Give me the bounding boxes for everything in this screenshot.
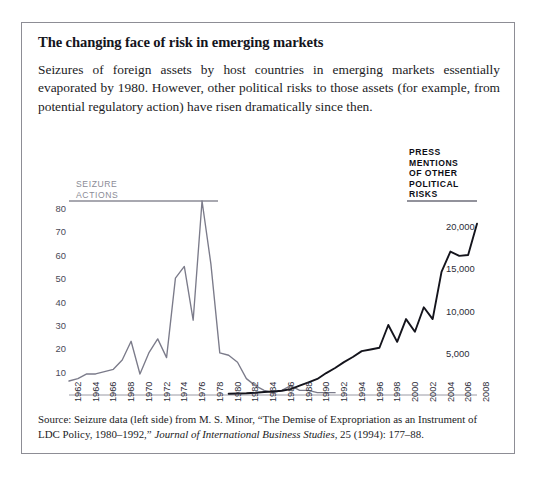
x-tick-1982: 1982 [250,382,260,402]
left-axis-title: SEIZURE ACTIONS [76,179,118,200]
right-axis-title-line4: POLITICAL [409,179,459,190]
x-tick-1968: 1968 [126,382,136,402]
figure-intro-text: Seizures of foreign assets by host count… [38,61,500,116]
x-tick-2002: 2002 [428,382,438,402]
source-suffix: , 25 (1994): 177–88. [335,428,424,440]
x-tick-2004: 2004 [446,382,456,402]
x-tick-2008: 2008 [481,382,491,402]
x-tick-1970: 1970 [144,382,154,402]
x-tick-1990: 1990 [321,382,331,402]
x-tick-1984: 1984 [268,382,278,402]
left-tick-80: 80 [44,203,66,214]
right-axis-title: PRESS MENTIONS OF OTHER POLITICAL RISKS [409,147,459,200]
left-tick-10: 10 [44,367,66,378]
left-tick-50: 50 [44,273,66,284]
right-tick-15000: 15,000 [446,263,475,274]
right-axis-title-line5: RISKS [409,189,459,200]
right-axis-title-line2: MENTIONS [409,158,459,169]
right-axis-title-line1: PRESS [409,147,459,158]
x-tick-1972: 1972 [162,382,172,402]
right-tick-5000: 5,000 [446,348,469,359]
figure-container: The changing face of risk in emerging ma… [21,22,515,454]
figure-source-note: Source: Seizure data (left side) from M.… [38,412,500,442]
x-tick-1998: 1998 [392,382,402,402]
x-tick-1974: 1974 [179,382,189,402]
right-tick-10000: 10,000 [446,306,475,317]
left-axis-title-line1: SEIZURE [76,179,118,190]
x-tick-1976: 1976 [197,382,207,402]
left-tick-20: 20 [44,343,66,354]
x-tick-1996: 1996 [375,382,385,402]
left-tick-40: 40 [44,297,66,308]
x-tick-2000: 2000 [410,382,420,402]
figure-title: The changing face of risk in emerging ma… [38,34,498,51]
source-journal-title: Journal of International Business Studie… [154,428,334,440]
x-tick-1994: 1994 [357,382,367,402]
right-axis-title-line3: OF OTHER [409,168,459,179]
x-tick-2006: 2006 [463,382,473,402]
x-tick-1964: 1964 [91,382,101,402]
x-tick-1986: 1986 [286,382,296,402]
series-line-seizure-actions [69,201,335,393]
x-tick-1962: 1962 [73,382,83,402]
x-tick-1992: 1992 [339,382,349,402]
chart-area: SEIZURE ACTIONS PRESS MENTIONS OF OTHER … [22,131,514,409]
right-tick-20000: 20,000 [446,221,475,232]
x-tick-1980: 1980 [233,382,243,402]
left-axis-title-line2: ACTIONS [76,190,118,201]
x-tick-1966: 1966 [108,382,118,402]
left-tick-70: 70 [44,226,66,237]
left-tick-30: 30 [44,320,66,331]
series-line-press-mentions [229,224,477,394]
x-tick-1988: 1988 [304,382,314,402]
left-tick-60: 60 [44,250,66,261]
x-tick-1978: 1978 [215,382,225,402]
